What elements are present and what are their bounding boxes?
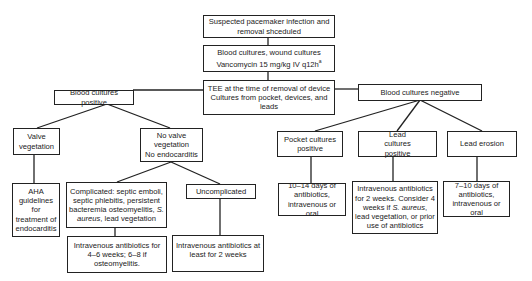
node-suspected-infection: Suspected pacemaker infection and remova… (203, 15, 335, 38)
node-no-valve-vegetation: No valve vegetation No endocarditis (140, 128, 203, 162)
node-text: Intravenous antibiotics for 4–6 weeks; 6… (70, 241, 164, 269)
vancomycin-text: Vancomycin 15 mg/kg IV q12h (216, 59, 318, 68)
node-lead-treatment: Intravenous antibiotics for 2 weeks. Con… (352, 181, 438, 234)
text-italic: S. aureus (392, 203, 425, 212)
node-tee: TEE at the time of removal of device Cul… (203, 80, 335, 115)
node-text: No endocarditis (145, 150, 198, 159)
node-pocket-treatment: 10–14 days of antibiotics, intravenous o… (278, 183, 346, 216)
node-text: Valve vegetation (16, 132, 57, 151)
node-pocket-cultures-positive: Pocket cultures positive (277, 131, 343, 157)
node-text: Suspected pacemaker infection and remova… (206, 17, 332, 36)
node-lead-erosion: Lead erosion (447, 131, 517, 157)
node-text: TEE at the time of removal of device Cul… (206, 84, 332, 112)
node-valve-vegetation: Valve vegetation (13, 128, 60, 155)
node-text: Pocket cultures positive (280, 135, 340, 154)
node-iv-at-least-2-weeks: Intravenous antibiotics at least for 2 w… (172, 235, 264, 272)
node-lead-cultures-positive: Lead cultures positive (358, 131, 437, 157)
node-text: Uncomplicated (196, 187, 246, 196)
node-text: 7–10 days of antibiotics, intravenous or… (446, 181, 507, 218)
node-text: 10–14 days of antibiotics, intravenous o… (281, 181, 343, 218)
node-text: Blood cultures positive (57, 88, 131, 107)
edge-negative-erosion (420, 100, 482, 131)
node-text: Lead erosion (460, 139, 504, 148)
node-text: Complicated: septic emboli, septic phleb… (69, 187, 164, 224)
node-blood-cultures-negative: Blood cultures negative (358, 84, 482, 101)
node-aha-guidelines: AHA guidelines for treatment of endocard… (12, 183, 60, 237)
node-erosion-treatment: 7–10 days of antibiotics, intravenous or… (443, 181, 510, 217)
node-iv-4-6-weeks: Intravenous antibiotics for 4–6 weeks; 6… (67, 236, 167, 273)
node-text: Intravenous antibiotics at least for 2 w… (175, 241, 261, 260)
edge-positive-novalve (107, 104, 170, 128)
edge-negative-lead (397, 100, 420, 131)
node-text: AHA guidelines for treatment of endocard… (15, 187, 57, 233)
node-blood-cultures-positive: Blood cultures positive (54, 90, 134, 105)
text-segment: Complicated: septic emboli, septic phleb… (69, 187, 163, 215)
node-complicated: Complicated: septic emboli, septic phleb… (66, 182, 167, 228)
edge-novalve-uncomplicated (171, 162, 220, 184)
node-uncomplicated: Uncomplicated (186, 184, 256, 199)
node-text: Vancomycin 15 mg/kg IV q12ha (216, 58, 321, 69)
node-text: No valve vegetation (143, 131, 200, 150)
footnote-marker: a (319, 58, 322, 64)
text-segment: , lead vegetation (100, 214, 156, 223)
node-text: Intravenous antibiotics for 2 weeks. Con… (355, 184, 435, 230)
node-blood-wound-cultures: Blood cultures, wound cultures Vancomyci… (203, 45, 335, 72)
edge-novalve-complicated (117, 162, 171, 182)
node-text: Blood cultures, wound cultures (217, 48, 320, 57)
edge-positive-valve (37, 104, 107, 128)
node-text: Blood cultures negative (381, 88, 460, 97)
node-text: Lead cultures positive (361, 130, 434, 158)
